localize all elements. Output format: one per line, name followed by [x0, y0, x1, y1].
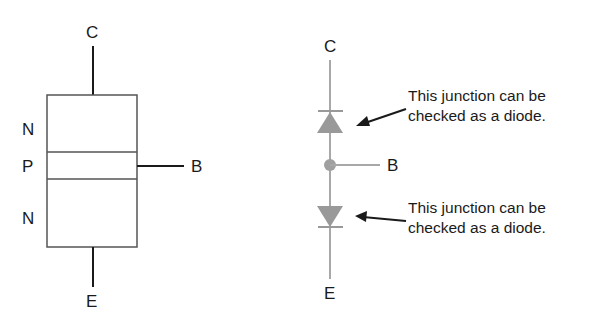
collector-label-equivalent: C [324, 38, 336, 55]
annotation-bottom-line1: This junction can be [408, 198, 546, 218]
annotation-top-line2: checked as a diode. [408, 106, 546, 126]
annotation-bottom: This junction can be checked as a diode. [408, 198, 546, 238]
annotation-bottom-line2: checked as a diode. [408, 218, 546, 238]
transistor-body [47, 95, 137, 247]
npn-structure [47, 46, 184, 287]
top-diode-triangle [317, 112, 343, 133]
annotation-top: This junction can be checked as a diode. [408, 86, 546, 126]
layer-label-p: P [22, 158, 33, 175]
layer-label-n-bottom: N [22, 210, 34, 227]
collector-label: C [86, 24, 98, 41]
diagram-canvas [0, 0, 609, 334]
arrow-icon [356, 109, 406, 126]
base-label-equivalent: B [387, 157, 398, 174]
arrow-icon [355, 211, 406, 222]
bottom-diode-triangle [317, 206, 343, 227]
layer-label-n-top: N [22, 121, 34, 138]
emitter-label-equivalent: E [324, 285, 335, 302]
base-label: B [191, 158, 202, 175]
annotation-top-line1: This junction can be [408, 86, 546, 106]
emitter-label: E [86, 293, 97, 310]
